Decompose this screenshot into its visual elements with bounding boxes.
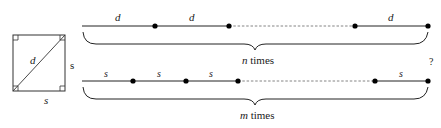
top-brace: [83, 32, 428, 50]
top-segment-label-2: d: [189, 11, 195, 23]
bottom-dot-2: [183, 78, 188, 83]
square-diagonal: [13, 35, 65, 91]
bottom-dot-4: [372, 78, 377, 83]
diagram-canvas: d s s d d d n times ? s s s s m t: [0, 0, 441, 128]
top-dot-1: [152, 23, 157, 28]
bottom-segment-label-2: s: [157, 68, 161, 79]
bottom-segment-label-1: s: [104, 68, 108, 79]
right-angle-marker-top-left: [13, 35, 18, 40]
bottom-brace-label-text: times: [248, 109, 275, 121]
square-side-bottom-label: s: [44, 94, 48, 106]
bottom-segment-label-3: s: [209, 68, 213, 79]
top-brace-label-text: times: [248, 54, 275, 66]
square-side-right-label: s: [70, 59, 74, 71]
question-mark: ?: [429, 56, 434, 67]
square-figure: d s s: [13, 35, 74, 106]
top-segment-label-3: d: [388, 11, 394, 23]
square-diagonal-label: d: [30, 54, 36, 66]
bottom-brace-label-var: m: [240, 109, 248, 121]
bottom-dot-5: [425, 78, 430, 83]
top-dot-2: [226, 23, 231, 28]
right-angle-marker-bottom-right: [60, 86, 65, 91]
bottom-dot-3: [235, 78, 240, 83]
top-dot-4: [425, 23, 430, 28]
top-dot-3: [352, 23, 357, 28]
top-brace-label: n times: [242, 54, 274, 66]
bottom-dot-1: [130, 78, 135, 83]
bottom-row: s s s s m times: [82, 68, 431, 121]
top-row: d d d n times: [82, 11, 431, 66]
bottom-segment-label-4: s: [399, 68, 403, 79]
bottom-brace: [83, 87, 428, 105]
bottom-brace-label: m times: [240, 109, 275, 121]
top-segment-label-1: d: [115, 11, 121, 23]
